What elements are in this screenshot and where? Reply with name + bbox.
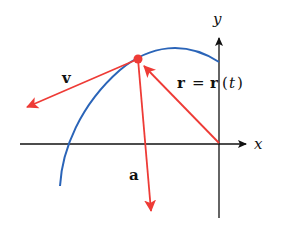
vector-diagram: y x v a r = r ( t ) [0,0,284,228]
position-label-r-func: r [210,74,219,92]
position-label-r: r [177,74,186,92]
position-label-t: t [229,74,236,92]
velocity-label: v [61,69,72,87]
acceleration-vector [138,59,151,211]
position-label: r = r ( t ) [177,74,243,92]
velocity-vector [27,59,138,107]
position-label-equals: = [192,74,205,92]
position-label-paren-close: ) [237,74,243,92]
acceleration-label: a [129,166,139,184]
x-axis-label: x [254,135,263,153]
position-label-paren-open: ( [222,74,228,92]
particle-point [134,55,143,64]
y-axis-label: y [212,10,222,28]
